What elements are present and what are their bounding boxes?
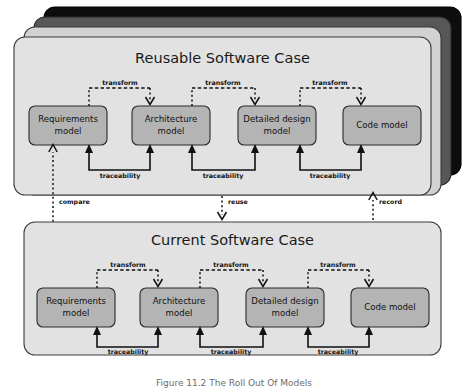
model-label-architecture-reusable-line2: model bbox=[158, 126, 185, 136]
software-case-diagram: Reusable Software Case transform transfo… bbox=[0, 0, 468, 388]
traceability-label-1-current: traceability bbox=[108, 348, 149, 356]
transform-label-1-reusable: transform bbox=[102, 79, 138, 86]
reusable-case-title: Reusable Software Case bbox=[135, 50, 310, 66]
traceability-label-3-current: traceability bbox=[318, 348, 359, 356]
current-case-title: Current Software Case bbox=[151, 232, 314, 248]
model-label-requirements-reusable-line2: model bbox=[55, 126, 82, 136]
diagram-canvas: Reusable Software Case transform transfo… bbox=[0, 0, 468, 388]
traceability-label-2-reusable: traceability bbox=[203, 172, 244, 180]
model-label-detailed-design-current-line2: model bbox=[272, 308, 299, 318]
model-label-requirements-current-line2: model bbox=[63, 308, 90, 318]
model-label-architecture-reusable-line1: Architecture bbox=[145, 114, 198, 124]
model-label-requirements-reusable-line1: Requirements bbox=[38, 114, 98, 124]
transform-label-2-reusable: transform bbox=[205, 79, 241, 86]
transform-label-1-current: transform bbox=[110, 261, 146, 268]
traceability-label-3-reusable: traceability bbox=[310, 172, 351, 180]
model-label-architecture-current-line1: Architecture bbox=[153, 296, 206, 306]
transform-label-3-current: transform bbox=[320, 261, 356, 268]
model-label-code-current-line1: Code model bbox=[364, 302, 416, 312]
model-label-code-reusable-line1: Code model bbox=[356, 120, 408, 130]
figure-caption: Figure 11.2 The Roll Out Of Models bbox=[156, 378, 312, 388]
model-label-architecture-current-line2: model bbox=[166, 308, 193, 318]
transform-label-2-current: transform bbox=[213, 261, 249, 268]
traceability-label-1-reusable: traceability bbox=[100, 172, 141, 180]
model-label-detailed-design-reusable-line1: Detailed design bbox=[243, 114, 310, 124]
traceability-label-2-current: traceability bbox=[211, 348, 252, 356]
reuse-link-label: reuse bbox=[228, 198, 248, 205]
model-label-requirements-current-line1: Requirements bbox=[46, 296, 106, 306]
record-link-label: record bbox=[379, 198, 402, 205]
compare-link-label: compare bbox=[59, 198, 90, 206]
model-label-detailed-design-current-line1: Detailed design bbox=[251, 296, 318, 306]
model-label-detailed-design-reusable-line2: model bbox=[264, 126, 291, 136]
reuse-arrowhead bbox=[218, 212, 227, 220]
transform-label-3-reusable: transform bbox=[312, 79, 348, 86]
